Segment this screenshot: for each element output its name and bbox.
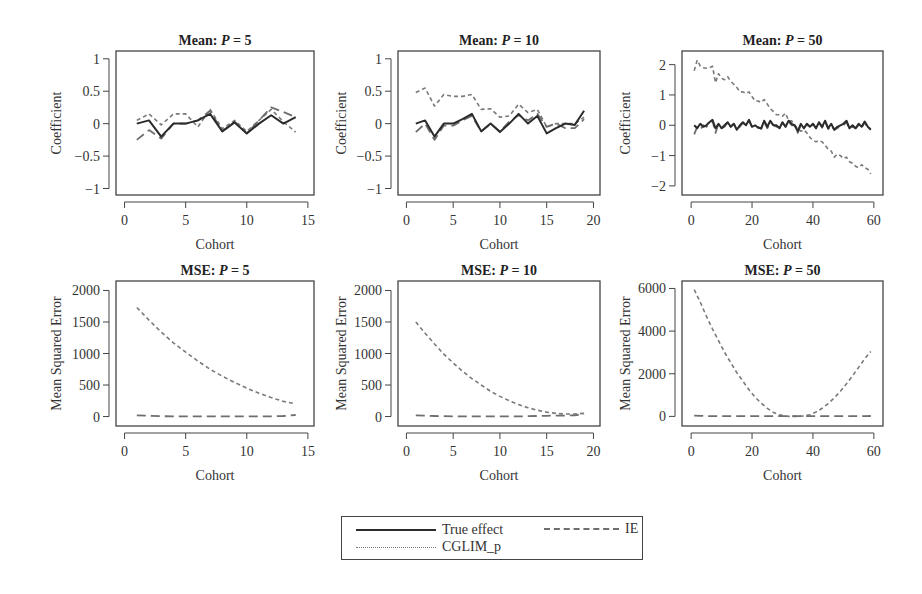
y-tick-label: 2 [659, 58, 666, 73]
x-tick-label: 60 [867, 213, 881, 228]
y-tick-label: 1000 [354, 347, 382, 362]
y-tick-label: −2 [651, 179, 666, 194]
y-tick-label: 0 [375, 410, 382, 425]
series-cglim-p [416, 322, 584, 414]
x-tick-label: 60 [867, 444, 881, 459]
x-tick-label: 0 [688, 444, 695, 459]
x-axis-label: Cohort [196, 237, 235, 252]
y-tick-label: 0 [375, 117, 382, 132]
x-tick-label: 20 [745, 444, 759, 459]
x-tick-label: 10 [493, 444, 507, 459]
y-tick-label: 4000 [638, 324, 666, 339]
y-axis-label: Mean Squared Error [334, 296, 349, 411]
x-axis-label: Cohort [480, 237, 519, 252]
x-tick-label: 5 [182, 444, 189, 459]
short-dash-line-icon [356, 547, 436, 548]
y-axis-label: Coefficient [618, 92, 633, 155]
x-tick-label: 15 [540, 444, 554, 459]
y-tick-label: 1 [659, 88, 666, 103]
x-axis: 05101520 [403, 433, 601, 459]
x-tick-label: 20 [745, 213, 759, 228]
x-tick-label: 0 [121, 213, 128, 228]
y-axis: 2000150010005000 [354, 283, 391, 424]
panel-title: Mean: P = 5 [179, 33, 252, 48]
x-axis-label: Cohort [763, 237, 802, 252]
y-tick-label: −1 [85, 182, 100, 197]
y-tick-label: 1 [93, 52, 100, 67]
y-tick-label: 1500 [354, 315, 382, 330]
panel-mse_p50: MSE: P = 500204060Cohort6000400020000Mea… [618, 263, 883, 483]
x-tick-label: 0 [403, 213, 410, 228]
y-axis-label: Coefficient [334, 92, 349, 155]
plot-frame [682, 281, 883, 426]
y-tick-label: 0 [659, 118, 666, 133]
x-tick-label: 20 [586, 213, 600, 228]
x-tick-label: 40 [806, 444, 820, 459]
y-axis-label: Mean Squared Error [49, 296, 64, 411]
y-tick-label: 2000 [354, 283, 382, 298]
legend-item-true-effect: True effect [356, 522, 503, 538]
y-axis: 10.50−0.5−1 [357, 52, 391, 197]
x-axis-label: Cohort [763, 468, 802, 483]
series-true-effect [416, 111, 584, 137]
x-tick-label: 10 [240, 444, 254, 459]
plot-frame [116, 281, 314, 426]
long-dash-line-icon [544, 528, 619, 530]
panel-mean_p50: Mean: P = 500204060Cohort210−1−2Coeffici… [618, 33, 883, 252]
x-axis: 051015 [121, 202, 315, 228]
x-axis: 05101520 [403, 202, 601, 228]
y-tick-label: −1 [367, 182, 382, 197]
y-tick-label: 0 [93, 410, 100, 425]
legend-item-cglim-p: CGLIM_p [356, 539, 501, 555]
plot-frame [398, 281, 600, 426]
series-ie [694, 416, 871, 417]
y-tick-label: 500 [79, 378, 100, 393]
x-tick-label: 15 [301, 213, 315, 228]
y-tick-label: −0.5 [75, 149, 100, 164]
y-tick-label: 0 [93, 117, 100, 132]
y-axis: 2000150010005000 [72, 283, 109, 424]
panel-mse_p5: MSE: P = 5051015Cohort2000150010005000Me… [49, 263, 315, 483]
y-axis: 6000400020000 [638, 281, 675, 424]
panel-title: MSE: P = 5 [180, 263, 249, 278]
x-tick-label: 0 [688, 213, 695, 228]
series-cglim-p [694, 60, 871, 174]
legend-label: CGLIM_p [442, 539, 501, 555]
panel-mean_p10: Mean: P = 1005101520Cohort10.50−0.5−1Coe… [334, 33, 600, 252]
y-axis: 210−1−2 [651, 58, 675, 194]
y-tick-label: 1000 [72, 347, 100, 362]
solid-line-icon [356, 529, 436, 531]
series-cglim-p [137, 308, 296, 404]
panel-title: Mean: P = 10 [459, 33, 539, 48]
x-tick-label: 10 [493, 213, 507, 228]
y-tick-label: 0 [659, 409, 666, 424]
panel-title: Mean: P = 50 [743, 33, 823, 48]
x-axis: 0204060 [688, 202, 881, 228]
x-axis-label: Cohort [196, 468, 235, 483]
legend: True effect IE CGLIM_p [341, 516, 643, 560]
x-tick-label: 5 [450, 213, 457, 228]
x-tick-label: 10 [240, 213, 254, 228]
legend-item-ie: IE [544, 521, 638, 537]
y-tick-label: 1 [375, 52, 382, 67]
panel-mean_p5: Mean: P = 5051015Cohort10.50−0.5−1Coeffi… [49, 33, 315, 252]
x-tick-label: 0 [121, 444, 128, 459]
y-tick-label: −1 [651, 149, 666, 164]
y-tick-label: 0.5 [83, 84, 101, 99]
x-tick-label: 15 [540, 213, 554, 228]
y-axis-label: Coefficient [49, 92, 64, 155]
x-axis-label: Cohort [480, 468, 519, 483]
y-tick-label: 2000 [638, 367, 666, 382]
y-tick-label: 0.5 [365, 84, 383, 99]
x-tick-label: 20 [586, 444, 600, 459]
x-axis: 0204060 [688, 433, 881, 459]
panel-title: MSE: P = 50 [744, 263, 820, 278]
y-tick-label: 6000 [638, 281, 666, 296]
y-tick-label: −0.5 [357, 149, 382, 164]
series-cglim-p [416, 88, 584, 127]
panel-mse_p10: MSE: P = 1005101520Cohort200015001000500… [334, 263, 600, 483]
x-axis: 051015 [121, 433, 315, 459]
series-ie [416, 414, 584, 416]
x-tick-label: 15 [301, 444, 315, 459]
series-ie [137, 415, 296, 416]
